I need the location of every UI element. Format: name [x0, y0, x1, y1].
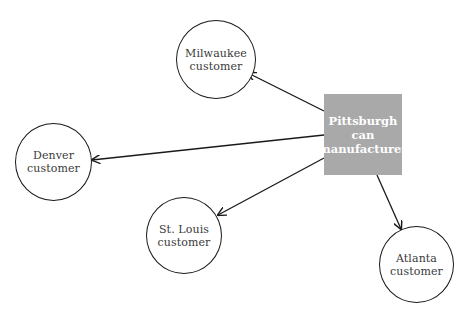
edge-pittsburgh-to-milwaukee: [248, 73, 324, 111]
node-label-line-1: Milwaukee: [185, 47, 247, 60]
edge-pittsburgh-to-stlouis: [218, 158, 324, 215]
node-label-line-2: customer: [27, 162, 80, 175]
node-label-line-2: customer: [390, 265, 443, 278]
node-atlanta-customer: Atlanta customer: [379, 226, 454, 303]
hub-label-line-2: can: [352, 128, 375, 142]
hub-label-line-1: Pittsburgh: [329, 114, 398, 128]
hub-pittsburgh-manufacturer: Pittsburgh can manufacturer: [324, 94, 402, 175]
node-label-line-1: St. Louis: [159, 223, 209, 236]
node-label-line-2: customer: [158, 236, 211, 249]
node-denver-customer: Denver customer: [15, 123, 92, 201]
edge-pittsburgh-to-atlanta: [377, 175, 401, 229]
node-label-line-1: Atlanta: [396, 252, 437, 265]
node-stlouis-customer: St. Louis customer: [146, 197, 222, 274]
edge-pittsburgh-to-denver: [92, 135, 324, 160]
hub-label-line-3: manufacturer: [319, 142, 408, 156]
node-label-line-1: Denver: [33, 149, 74, 162]
node-label-line-2: customer: [190, 60, 243, 73]
diagram-canvas: Pittsburgh can manufacturer Milwaukee cu…: [0, 0, 464, 315]
node-milwaukee-customer: Milwaukee customer: [176, 20, 256, 99]
